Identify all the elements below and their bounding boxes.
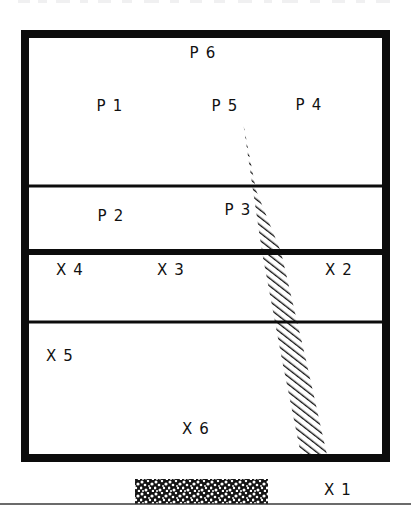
label-p6: P 6 xyxy=(190,44,217,62)
label-x4: X 4 xyxy=(56,261,84,279)
label-x1: X 1 xyxy=(324,481,352,499)
stippled-deposit-block xyxy=(135,479,268,504)
label-p4: P 4 xyxy=(296,96,323,114)
label-x2: X 2 xyxy=(325,261,353,279)
label-x5: X 5 xyxy=(46,347,74,365)
label-p3: P 3 xyxy=(225,201,252,219)
label-p1: P 1 xyxy=(97,97,124,115)
cross-section-figure: P 6 P 1 P 5 P 4 P 2 P 3 X 4 X 3 X 2 X 5 … xyxy=(0,0,411,515)
label-p5: P 5 xyxy=(212,97,239,115)
clipped-caption-remnant xyxy=(18,0,390,3)
section-frame-interior xyxy=(25,34,386,458)
diagram-root: P 6 P 1 P 5 P 4 P 2 P 3 X 4 X 3 X 2 X 5 … xyxy=(0,0,411,515)
label-x3: X 3 xyxy=(157,261,185,279)
label-p2: P 2 xyxy=(98,207,125,225)
label-x6: X 6 xyxy=(182,420,210,438)
